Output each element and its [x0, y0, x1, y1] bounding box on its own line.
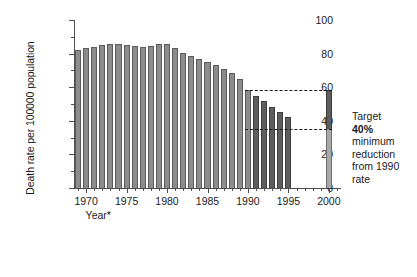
annotation-line-2: 40% — [352, 123, 414, 136]
x-tick-major — [127, 188, 128, 193]
y-tick-major — [69, 54, 74, 55]
x-axis-title: Year* — [86, 209, 111, 221]
x-tick-label-1985: 1985 — [196, 195, 219, 207]
bar-1971 — [91, 47, 97, 188]
bar-1977 — [140, 47, 146, 188]
annotation-line-6: rate — [352, 173, 414, 186]
x-tick-minor — [183, 188, 184, 191]
x-tick-label-2000: 2000 — [317, 195, 340, 207]
x-tick-minor — [256, 188, 257, 191]
y-tick-major — [69, 121, 74, 122]
x-tick-minor — [240, 188, 241, 191]
target-annotation: Target 40% minimum reduction from 1990 r… — [352, 110, 414, 186]
annotation-line-1: Target — [352, 110, 414, 123]
bar-1984 — [196, 59, 202, 188]
x-tick-minor — [216, 188, 217, 191]
x-tick-minor — [94, 188, 95, 191]
bar-1985 — [204, 62, 210, 188]
x-tick-major — [248, 188, 249, 193]
bar-1980 — [164, 44, 170, 188]
x-tick-label-1990: 1990 — [236, 195, 259, 207]
bar-1969 — [75, 50, 81, 188]
x-tick-minor — [78, 188, 79, 191]
bar-2000-target — [326, 129, 332, 188]
x-tick-minor — [191, 188, 192, 191]
x-tick-major — [208, 188, 209, 193]
y-tick-minor — [71, 138, 74, 139]
bar-1988 — [229, 73, 235, 188]
bar-1974 — [115, 44, 121, 188]
annotation-line-5: from 1990 — [352, 160, 414, 173]
y-tick-minor — [71, 104, 74, 105]
x-tick-minor — [232, 188, 233, 191]
bar-1989 — [237, 79, 243, 188]
x-tick-major — [167, 188, 168, 193]
x-tick-minor — [280, 188, 281, 191]
bar-1975 — [124, 45, 130, 188]
bar-1976 — [132, 46, 138, 188]
x-tick-major — [329, 188, 330, 193]
bar-1982 — [180, 53, 186, 188]
x-tick-label-1980: 1980 — [155, 195, 178, 207]
x-tick-minor — [159, 188, 160, 191]
y-axis-title: Death rate per 100000 population — [24, 18, 36, 218]
x-tick-minor — [110, 188, 111, 191]
x-tick-minor — [135, 188, 136, 191]
bar-1986 — [213, 65, 219, 188]
bar-1978 — [148, 46, 154, 188]
x-tick-minor — [102, 188, 103, 191]
annotation-line-3: minimum — [352, 135, 414, 148]
bar-1995 — [285, 117, 291, 188]
bar-1990 — [245, 90, 251, 188]
x-tick-label-1995: 1995 — [277, 195, 300, 207]
x-tick-minor — [119, 188, 120, 191]
x-tick-minor — [305, 188, 306, 191]
y-tick-major — [69, 188, 74, 189]
x-tick-minor — [199, 188, 200, 191]
bar-1992 — [261, 101, 267, 188]
bar-1993 — [269, 107, 275, 188]
x-tick-label-1970: 1970 — [74, 195, 97, 207]
x-tick-minor — [337, 188, 338, 191]
plot-area: 020406080100 197019751980198519901995200… — [74, 20, 341, 188]
chart-figure: Death rate per 100000 population 0204060… — [0, 0, 417, 277]
x-tick-major — [86, 188, 87, 193]
x-tick-minor — [224, 188, 225, 191]
bar-1987 — [221, 69, 227, 188]
bar-1994 — [277, 112, 283, 188]
x-tick-minor — [321, 188, 322, 191]
x-tick-label-1975: 1975 — [115, 195, 138, 207]
x-tick-minor — [313, 188, 314, 191]
bar-1981 — [172, 48, 178, 188]
x-tick-minor — [272, 188, 273, 191]
y-tick-major — [69, 87, 74, 88]
x-tick-minor — [264, 188, 265, 191]
reference-line-1 — [245, 129, 332, 130]
bar-1979 — [156, 44, 162, 188]
x-tick-minor — [143, 188, 144, 191]
bar-1991 — [253, 96, 259, 188]
x-tick-minor — [175, 188, 176, 191]
x-tick-minor — [297, 188, 298, 191]
bar-2000-reduction — [326, 90, 332, 129]
x-tick-major — [288, 188, 289, 193]
reference-line-0 — [245, 90, 332, 91]
y-tick-minor — [71, 70, 74, 71]
y-tick-label-80: 80 — [321, 48, 333, 60]
annotation-line-4: reduction — [352, 148, 414, 161]
y-tick-minor — [71, 37, 74, 38]
bar-1973 — [107, 44, 113, 188]
y-tick-major — [69, 20, 74, 21]
x-tick-minor — [151, 188, 152, 191]
bar-1972 — [99, 45, 105, 188]
y-tick-major — [69, 154, 74, 155]
bar-1983 — [188, 56, 194, 188]
bar-1970 — [83, 48, 89, 188]
y-tick-label-100: 100 — [315, 14, 333, 26]
y-tick-minor — [71, 171, 74, 172]
